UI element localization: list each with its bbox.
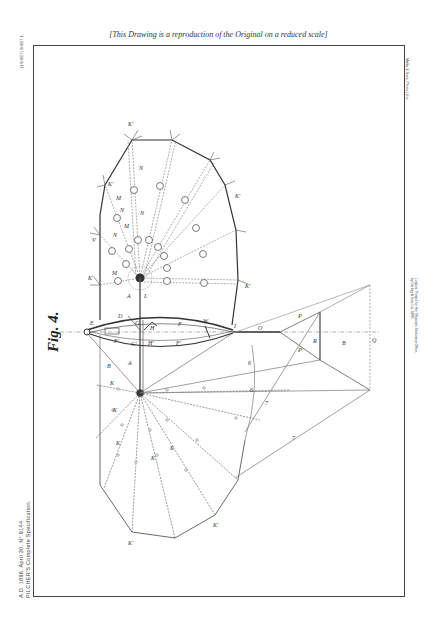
hull <box>60 316 380 395</box>
svg-text:M: M <box>111 270 118 276</box>
svg-text:B: B <box>107 363 111 369</box>
svg-text:K: K <box>112 407 118 413</box>
lower-wing <box>87 333 290 538</box>
svg-text:K': K' <box>244 283 251 289</box>
svg-text:F: F <box>177 321 182 327</box>
svg-text:F': F' <box>175 340 182 346</box>
svg-text:K': K' <box>212 522 219 528</box>
svg-text:7: 7 <box>292 435 296 441</box>
svg-text:7: 7 <box>265 400 269 406</box>
svg-text:K': K' <box>107 181 114 187</box>
svg-text:K': K' <box>127 121 134 127</box>
svg-text:N: N <box>112 232 118 238</box>
svg-text:P': P' <box>297 347 304 353</box>
svg-text:N: N <box>139 210 145 216</box>
svg-text:K: K <box>109 380 115 386</box>
svg-text:6: 6 <box>248 360 251 366</box>
svg-text:H: H <box>149 325 155 331</box>
svg-text:I: I <box>233 323 237 329</box>
figure-title: Fig. 4. <box>45 312 61 353</box>
svg-text:H': H' <box>147 340 154 346</box>
svg-text:G: G <box>135 320 140 326</box>
svg-text:R: R <box>312 338 317 344</box>
glider-drawing: Fig. 4. K' K' K' K' K' N N N N M M M L V… <box>0 0 437 619</box>
upper-wing <box>90 130 248 325</box>
svg-text:N: N <box>138 165 144 171</box>
svg-text:N: N <box>119 207 125 213</box>
svg-text:G': G' <box>131 341 137 347</box>
svg-text:P: P <box>297 313 302 319</box>
svg-text:E: E <box>89 320 94 326</box>
svg-text:Q: Q <box>372 337 377 343</box>
svg-text:V: V <box>92 237 97 243</box>
svg-text:D: D <box>117 313 123 319</box>
svg-text:6: 6 <box>250 387 253 393</box>
figure-labels: Fig. 4. K' K' K' K' K' N N N N M M M L V… <box>45 121 377 546</box>
svg-text:K': K' <box>127 540 134 546</box>
svg-text:M: M <box>123 223 130 229</box>
svg-text:O: O <box>258 325 263 331</box>
svg-text:L: L <box>143 293 148 299</box>
svg-text:M: M <box>115 195 122 201</box>
svg-text:F': F' <box>113 338 120 344</box>
svg-text:K': K' <box>87 275 94 281</box>
svg-text:K': K' <box>234 193 241 199</box>
svg-text:A: A <box>127 360 132 366</box>
svg-text:B: B <box>342 340 346 346</box>
svg-text:A: A <box>126 293 131 299</box>
